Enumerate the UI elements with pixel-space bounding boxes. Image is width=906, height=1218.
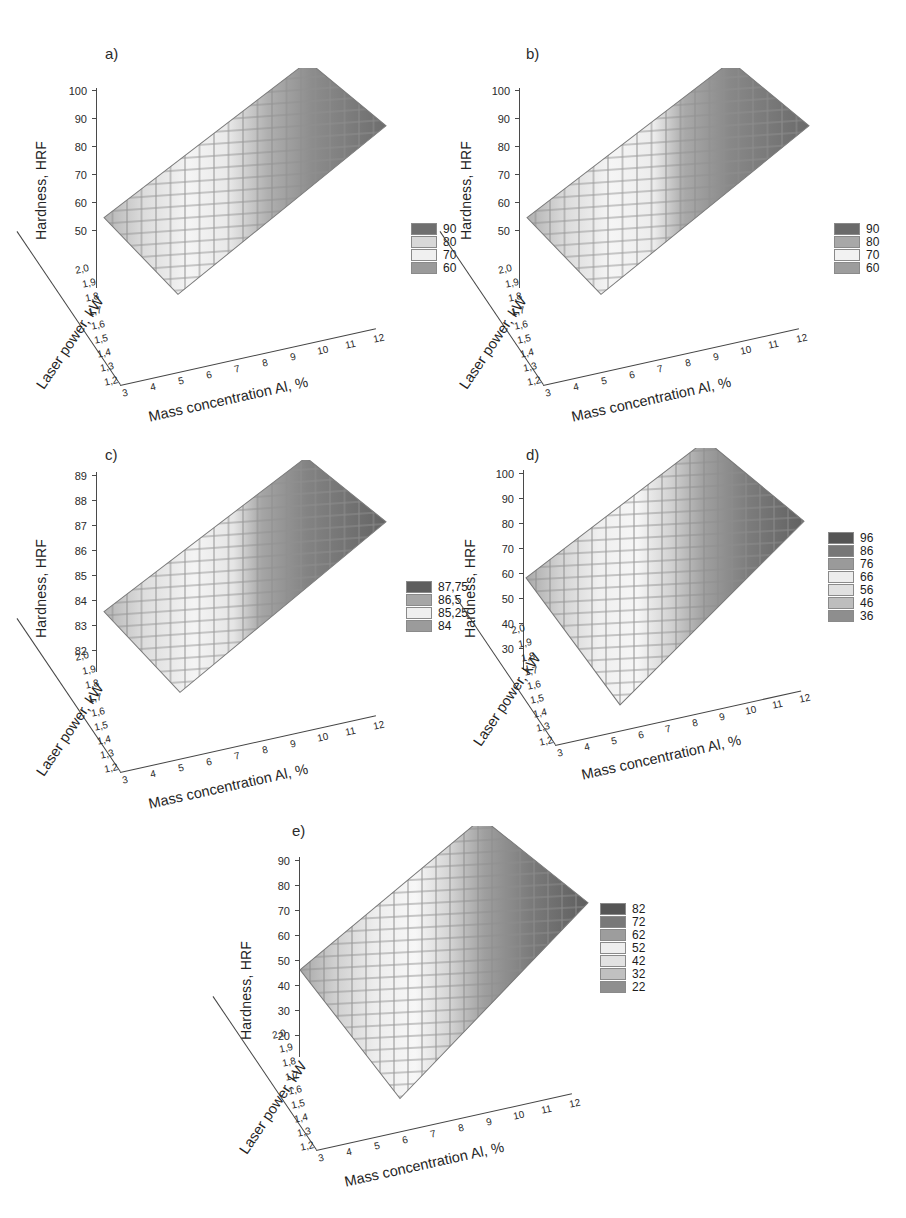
panel-c-xtick: 10: [316, 731, 329, 744]
panel-a-ztickmark: [92, 202, 96, 203]
panel-d-legend: 96 86 76 66 56 46 36: [828, 531, 873, 622]
legend-label: 82: [632, 903, 645, 915]
panel-a-ytick: 2,0: [74, 262, 90, 276]
panel-b-xtick: 5: [600, 375, 608, 387]
legend-label: 22: [632, 981, 645, 993]
panel-d-xaxis-title: Mass concentration Al, %: [580, 732, 742, 783]
legend-swatch: [828, 597, 854, 609]
panel-b-ztickmark: [515, 146, 519, 147]
legend-swatch: [828, 558, 854, 570]
panel-b-ytick: 1,2: [526, 374, 542, 388]
panel-b-ztickmark: [515, 118, 519, 119]
panel-b-ytick: 1,4: [519, 346, 535, 360]
panel-c-ztick: 85: [55, 570, 87, 582]
panel-c-surface: [98, 460, 388, 710]
panel-a-ztick: 90: [55, 113, 87, 125]
legend-label: 62: [632, 929, 645, 941]
panel-e-ztick: 40: [258, 980, 290, 992]
legend-swatch: [828, 610, 854, 622]
panel-b-ytick: 2,0: [497, 262, 513, 276]
panel-a-xtick: 3: [121, 387, 129, 399]
panel-e: e) Hardness, HRF 90 80 70 60 50 40 30 20: [200, 790, 800, 1218]
legend-item: 36: [828, 609, 873, 622]
panel-a-ztick: 70: [55, 169, 87, 181]
panel-c-xtick: 9: [289, 738, 297, 750]
panel-c-xtick: 11: [344, 725, 357, 738]
panel-a-ztickmark: [92, 90, 96, 91]
panel-c-xtick: 12: [372, 719, 385, 732]
panel-e-xtick: 12: [568, 1097, 581, 1110]
panel-c-ztickmark: [92, 475, 96, 476]
panel-a-xtick: 6: [205, 369, 213, 381]
panel-c-ztickmark: [92, 525, 96, 526]
panel-b-ztickmark: [515, 174, 519, 175]
legend-label: 72: [632, 916, 645, 928]
panel-c-ztick: 83: [55, 620, 87, 632]
panel-c-ztick: 88: [55, 495, 87, 507]
panel-b-xtick: 4: [572, 381, 580, 393]
legend-swatch: [834, 223, 860, 235]
panel-e-xaxis-title: Mass concentration Al, %: [343, 1139, 505, 1190]
legend-swatch: [600, 903, 626, 915]
panel-b-ztickmark: [515, 230, 519, 231]
panel-c-ztickmark: [92, 600, 96, 601]
panel-b: b) Hardness, HRF 100 90 80 70 60 50: [452, 0, 906, 430]
panel-c-ztick: 84: [55, 595, 87, 607]
legend-swatch: [600, 942, 626, 954]
panel-c-ztickmark: [92, 650, 96, 651]
legend-swatch: [406, 594, 432, 606]
panel-b-zaxis-title: Hardness, HRF: [458, 141, 474, 240]
panel-e-ztick: 90: [258, 855, 290, 867]
legend-swatch: [600, 929, 626, 941]
legend-label: 96: [860, 532, 873, 544]
legend-swatch: [600, 968, 626, 980]
panel-b-ztick: 70: [478, 169, 510, 181]
panel-e-xtick: 3: [317, 1152, 325, 1164]
legend-label: 80: [866, 236, 879, 248]
panel-c-ytick: 1,5: [93, 719, 109, 733]
panel-c-xtick: 6: [205, 756, 213, 768]
panel-a-xtick: 4: [149, 381, 157, 393]
panel-a-ztick: 80: [55, 141, 87, 153]
panel-d-xtick: 3: [556, 747, 564, 759]
panel-d-ztick: 50: [482, 593, 514, 605]
panel-a-ztickmark: [92, 118, 96, 119]
legend-item: 80: [834, 235, 879, 248]
panel-b-xtick: 11: [767, 338, 780, 351]
panel-e-ztick: 60: [258, 930, 290, 942]
panel-c-xtick: 7: [233, 750, 241, 762]
panel-e-xtick: 6: [401, 1134, 409, 1146]
panel-b-ztickmark: [515, 90, 519, 91]
panel-a-ytick: 1,2: [103, 374, 119, 388]
panel-d-ztick: 90: [482, 493, 514, 505]
panel-b-xtick: 8: [684, 357, 692, 369]
panel-b-ztick: 50: [478, 225, 510, 237]
panel-c-ztick: 89: [55, 470, 87, 482]
panel-a: a) Hardness, HRF 100 90 80 70 60 50: [0, 0, 460, 430]
panel-a-ztick: 50: [55, 225, 87, 237]
panel-a-xtick: 12: [372, 332, 385, 345]
legend-item: 66: [828, 570, 873, 583]
panel-a-xtick: 10: [316, 344, 329, 357]
panel-b-xtick: 3: [544, 387, 552, 399]
panel-b-legend: 90 80 70 60: [834, 222, 879, 274]
panel-d-xtick: 4: [583, 741, 591, 753]
panel-e-zaxis-title: Hardness, HRF: [238, 941, 254, 1040]
legend-item: 76: [828, 557, 873, 570]
legend-item: 60: [411, 261, 456, 274]
legend-item: 42: [600, 954, 645, 967]
legend-swatch: [834, 236, 860, 248]
panel-b-ytick: 1,5: [516, 332, 532, 346]
panel-d-ztick: 100: [482, 468, 514, 480]
panel-b-ztick: 60: [478, 197, 510, 209]
panel-c-ytick: 1,2: [103, 761, 119, 775]
legend-item: 90: [834, 222, 879, 235]
panel-a-ytick: 1,4: [96, 346, 112, 360]
panel-c-xaxis-line: [120, 715, 376, 773]
panel-c-xtick: 5: [177, 762, 185, 774]
legend-item: 46: [828, 596, 873, 609]
panel-b-xtick: 10: [739, 344, 752, 357]
legend-item: 72: [600, 915, 645, 928]
panel-a-zaxis-title: Hardness, HRF: [33, 141, 49, 240]
legend-item: 60: [834, 261, 879, 274]
